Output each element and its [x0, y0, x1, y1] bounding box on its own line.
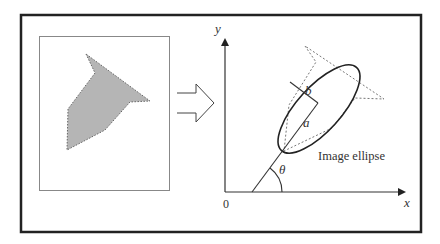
- y-axis-label: y: [213, 21, 221, 36]
- transform-arrow-icon: [177, 84, 214, 122]
- label-a: a: [303, 115, 310, 130]
- diagram-canvas: y x 0 a b θ Image ellipse: [0, 0, 440, 244]
- x-axis-label: x: [403, 195, 410, 210]
- ellipse-caption: Image ellipse: [318, 149, 385, 163]
- origin-label: 0: [223, 197, 229, 211]
- label-b: b: [305, 83, 312, 98]
- object-silhouette: [67, 54, 150, 150]
- minor-axis-line: [290, 82, 318, 103]
- label-theta: θ: [279, 162, 286, 177]
